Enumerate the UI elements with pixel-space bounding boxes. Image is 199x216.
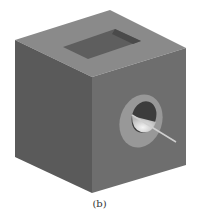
figure-caption: (b): [0, 198, 199, 209]
cube-illustration: [0, 0, 199, 216]
cube-figure: (b): [0, 0, 199, 216]
